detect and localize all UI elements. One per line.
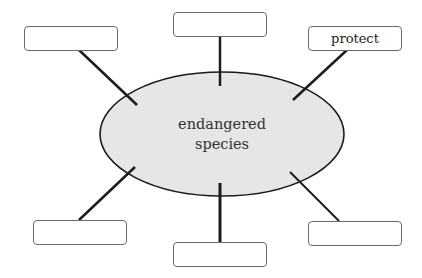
box-bottom-left[interactable] [33,220,127,245]
box-label: protect [331,31,379,46]
center-node: endangered species [100,72,344,196]
center-label-line2: species [195,134,249,154]
box-bottom-right[interactable] [308,221,402,246]
box-top-left[interactable] [24,26,118,51]
box-top-right[interactable]: protect [308,26,402,51]
box-top[interactable] [173,12,267,37]
box-bottom[interactable] [173,242,267,267]
center-label-line1: endangered [178,114,266,134]
